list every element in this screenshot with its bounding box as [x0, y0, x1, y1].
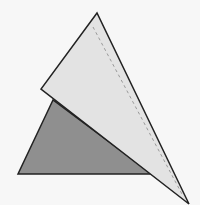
folded-triangle-diagram: [0, 0, 200, 205]
